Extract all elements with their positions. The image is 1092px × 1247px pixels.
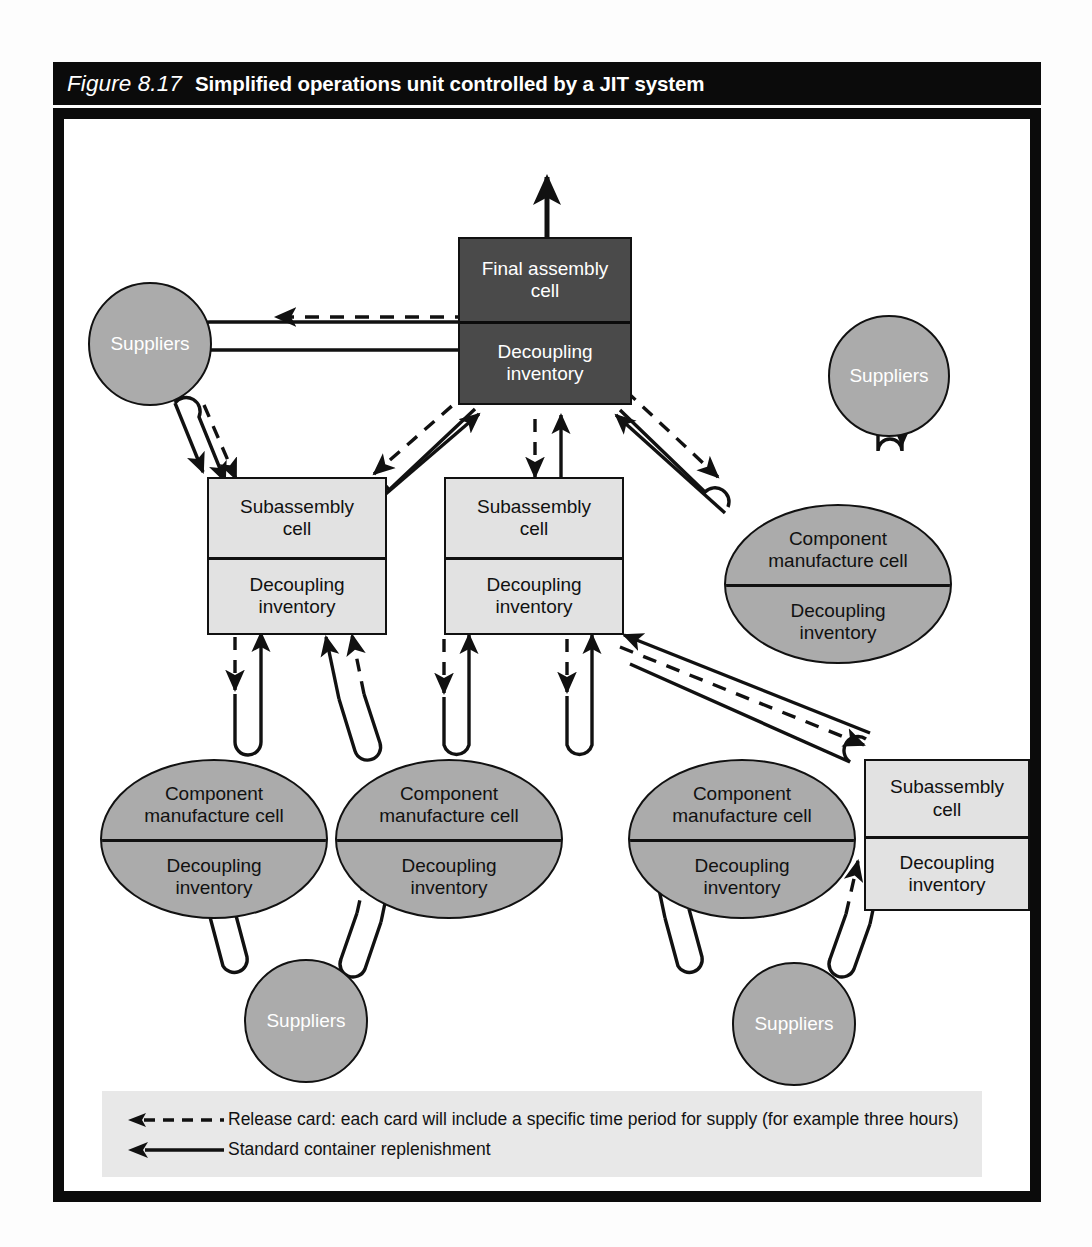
component-b1-divider <box>102 839 326 842</box>
component-b2-inv-line1: Decoupling <box>401 855 496 876</box>
component-b1-inv-line2: inventory <box>175 877 252 898</box>
component-b3-inv-line2: inventory <box>703 877 780 898</box>
component-b3-divider <box>630 839 854 842</box>
connector-u-bend-sbl-b2 <box>340 913 381 977</box>
final-assembly-inv-line2: inventory <box>506 363 583 384</box>
suppliers-right-label: Suppliers <box>849 365 928 387</box>
component-ur-inv-line1: Decoupling <box>790 600 885 621</box>
component-b1-title: Component manufacture cell <box>102 769 326 841</box>
subassembly-center-inv-line1: Decoupling <box>486 574 581 595</box>
subassembly-cell-center[interactable]: Subassembly cell Decoupling inventory <box>444 477 624 635</box>
subassembly-cell-left[interactable]: Subassembly cell Decoupling inventory <box>207 477 387 635</box>
figure-number: Figure 8.17 <box>67 71 182 97</box>
dashed-arrow-left-icon <box>124 1110 228 1130</box>
legend-standard-container-text: Standard container replenishment <box>228 1139 491 1160</box>
connector-u-bend-sub-left-b2 <box>339 694 381 760</box>
connector-u-bend-sub-left-b1 <box>235 690 261 755</box>
component-ur-inventory: Decoupling inventory <box>726 588 950 656</box>
component-b2-divider <box>337 839 561 842</box>
final-assembly-line1: Final assembly <box>482 258 609 279</box>
component-ur-inv-line2: inventory <box>799 622 876 643</box>
subassembly-right-line2: cell <box>933 799 962 820</box>
final-assembly-inventory: Decoupling inventory <box>460 324 630 402</box>
suppliers-top-left[interactable]: Suppliers <box>88 282 212 406</box>
subassembly-right-inv-line1: Decoupling <box>899 852 994 873</box>
figure-title: Simplified operations unit controlled by… <box>195 72 705 96</box>
final-assembly-cell-title: Final assembly cell <box>460 239 630 321</box>
component-b2-line2: manufacture cell <box>379 805 518 826</box>
diagram-canvas: Final assembly cell Decoupling inventory… <box>64 119 1030 1191</box>
component-b2-title: Component manufacture cell <box>337 769 561 841</box>
component-b1-line1: Component <box>165 783 263 804</box>
legend-release-card-text: Release card: each card will include a s… <box>228 1109 958 1130</box>
subassembly-left-line1: Subassembly <box>240 496 354 517</box>
connector-u-bend-sbr-subr <box>829 914 870 977</box>
subassembly-center-inv-line2: inventory <box>495 596 572 617</box>
component-ur-divider <box>726 584 950 587</box>
subassembly-left-inv-line1: Decoupling <box>249 574 344 595</box>
suppliers-bottom-right-label: Suppliers <box>754 1013 833 1035</box>
legend-item-release-card: Release card: each card will include a s… <box>124 1109 958 1130</box>
subassembly-right-inv-line2: inventory <box>908 874 985 895</box>
suppliers-bottom-left[interactable]: Suppliers <box>244 959 368 1083</box>
subassembly-right-inventory: Decoupling inventory <box>866 839 1028 909</box>
component-b3-title: Component manufacture cell <box>630 769 854 841</box>
component-ur-line2: manufacture cell <box>768 550 907 571</box>
connector-comp-ur-to-final-solid <box>616 415 725 513</box>
component-b3-line2: manufacture cell <box>672 805 811 826</box>
component-cell-bottom-1[interactable]: Component manufacture cell Decoupling in… <box>100 759 328 919</box>
connector-u-bend-sub-center-b2 <box>444 693 469 754</box>
subassembly-center-inventory: Decoupling inventory <box>446 560 622 632</box>
subassembly-left-inventory: Decoupling inventory <box>209 560 385 632</box>
component-cell-bottom-2[interactable]: Component manufacture cell Decoupling in… <box>335 759 563 919</box>
suppliers-right[interactable]: Suppliers <box>828 315 950 437</box>
connector-u-bend-fa-right <box>620 410 729 507</box>
final-assembly-cell[interactable]: Final assembly cell Decoupling inventory <box>458 237 632 405</box>
suppliers-bottom-right[interactable]: Suppliers <box>732 962 856 1086</box>
figure-container: Figure 8.17 Simplified operations unit c… <box>53 62 1041 1202</box>
subassembly-left-title: Subassembly cell <box>209 479 385 557</box>
legend-item-standard-container: Standard container replenishment <box>124 1139 491 1160</box>
suppliers-bottom-left-label: Suppliers <box>266 1010 345 1032</box>
subassembly-right-title: Subassembly cell <box>866 761 1028 836</box>
solid-arrow-left-icon <box>124 1140 228 1160</box>
component-b2-inv-line2: inventory <box>410 877 487 898</box>
subassembly-right-line1: Subassembly <box>890 776 1004 797</box>
component-b3-inv-line1: Decoupling <box>694 855 789 876</box>
legend: Release card: each card will include a s… <box>102 1091 982 1177</box>
subassembly-left-inv-line2: inventory <box>258 596 335 617</box>
component-b1-inventory: Decoupling inventory <box>102 843 326 911</box>
component-cell-bottom-3[interactable]: Component manufacture cell Decoupling in… <box>628 759 856 919</box>
suppliers-top-left-label: Suppliers <box>110 333 189 355</box>
component-cell-upper-right[interactable]: Component manufacture cell Decoupling in… <box>724 504 952 664</box>
subassembly-center-line1: Subassembly <box>477 496 591 517</box>
component-b1-line2: manufacture cell <box>144 805 283 826</box>
connector-sub-left-to-comp-b2-dashed <box>352 635 364 694</box>
final-assembly-line2: cell <box>531 280 560 301</box>
subassembly-cell-right[interactable]: Subassembly cell Decoupling inventory <box>864 759 1030 911</box>
subassembly-center-line2: cell <box>520 518 549 539</box>
figure-body: Final assembly cell Decoupling inventory… <box>53 108 1041 1202</box>
component-b2-inventory: Decoupling inventory <box>337 843 561 911</box>
connector-suppliers-topleft-to-final-solid <box>196 322 494 350</box>
component-ur-title: Component manufacture cell <box>726 514 950 586</box>
connector-u-bend-sub-center-right <box>630 664 866 762</box>
subassembly-center-title: Subassembly cell <box>446 479 622 557</box>
connector-u-bend-sbr-b3 <box>665 909 702 972</box>
component-b3-inventory: Decoupling inventory <box>630 843 854 911</box>
subassembly-left-line2: cell <box>283 518 312 539</box>
connector-u-bend-sub-center-b3 <box>567 692 592 754</box>
component-b2-line1: Component <box>400 783 498 804</box>
final-assembly-inv-line1: Decoupling <box>497 341 592 362</box>
connector-comp-b2-to-sub-left-solid <box>326 637 339 699</box>
figure-title-bar: Figure 8.17 Simplified operations unit c… <box>53 62 1041 105</box>
component-ur-line1: Component <box>789 528 887 549</box>
component-b3-line1: Component <box>693 783 791 804</box>
component-b1-inv-line1: Decoupling <box>166 855 261 876</box>
